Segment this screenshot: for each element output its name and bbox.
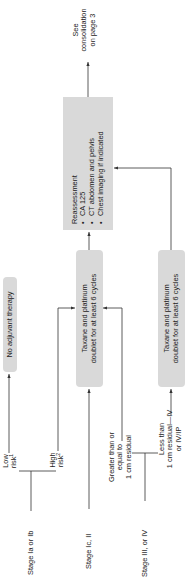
lt-1cm-residual-label: Less than 1 cm residual—IV or IV/IP: [158, 409, 183, 469]
see-consolidation-link[interactable]: See consolidation on page 3: [72, 0, 97, 60]
ge-1cm-residual-label: Greater than or equal to 1 cm residual: [108, 427, 133, 487]
stage-ic-ii-label: Stage Ic, II: [85, 534, 93, 569]
low-risk-label: Low risk1: [2, 452, 19, 470]
flowchart: Stage Ia or Ib Stage Ic, II Stage III, o…: [0, 0, 190, 581]
list-item: Chest imaging if indicated: [97, 131, 106, 224]
reassessment-box: Reassessment CA 125 CT abdomen and pelvi…: [63, 97, 113, 230]
taxane-platinum-box-2: Taxane and platinum doublet for at least…: [158, 250, 185, 387]
no-adjuvant-therapy-box: No adjuvant therapy: [3, 277, 17, 372]
stage-iii-iv-label: Stage III, or IV: [141, 530, 149, 577]
reassessment-list: CA 125 CT abdomen and pelvis Chest imagi…: [79, 131, 105, 224]
high-risk-label: High risk2: [49, 450, 66, 470]
stage-ia-ib-label: Stage Ia or Ib: [27, 531, 35, 575]
taxane-platinum-box-1: Taxane and platinum doublet for at least…: [76, 250, 103, 387]
